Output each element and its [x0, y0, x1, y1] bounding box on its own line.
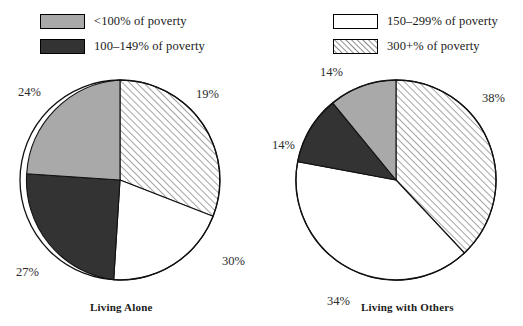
legend-item-label: 150–299% of poverty — [387, 15, 498, 28]
legend-item: 100–149% of poverty — [40, 38, 205, 54]
legend-item-label: <100% of poverty — [94, 15, 187, 28]
legend-right-column: 150–299% of poverty 300+% of poverty — [333, 13, 498, 54]
pie-label-14-dark: 14% — [272, 138, 295, 152]
charts-container: 19% 30% 27% 24% 38% 34% 14% 14% — [0, 60, 523, 326]
legend-swatch-icon — [333, 14, 378, 29]
pie-living-alone: 19% 30% 27% 24% — [16, 80, 245, 280]
pie-label-34: 34% — [327, 294, 350, 308]
legend-item-label: 300+% of poverty — [387, 40, 480, 53]
pie-label-14-gray: 14% — [320, 65, 343, 79]
legend-left-column: <100% of poverty 100–149% of poverty — [40, 13, 205, 54]
legend-item: <100% of poverty — [40, 13, 205, 29]
pie-label-27: 27% — [16, 265, 39, 279]
pie-label-30: 30% — [222, 254, 245, 268]
pie-label-38: 38% — [482, 91, 505, 105]
pie-title-living-alone: Living Alone — [90, 301, 153, 313]
pie-living-with-others: 38% 34% 14% 14% — [272, 65, 505, 308]
pie-charts-svg: 19% 30% 27% 24% 38% 34% 14% 14% — [0, 60, 523, 326]
legend-item: 300+% of poverty — [333, 38, 498, 54]
legend-swatch-icon — [40, 39, 85, 54]
legend-swatch-icon — [333, 39, 378, 54]
legend-item: 150–299% of poverty — [333, 13, 498, 29]
diagonal-hatch-icon — [334, 40, 377, 53]
pie-label-19: 19% — [196, 87, 219, 101]
pie-label-24: 24% — [18, 85, 41, 99]
pie-slice-100-149[interactable] — [26, 174, 120, 280]
legend-swatch-icon — [40, 14, 85, 29]
legend-item-label: 100–149% of poverty — [94, 40, 205, 53]
pie-title-living-with-others: Living with Others — [361, 301, 454, 313]
